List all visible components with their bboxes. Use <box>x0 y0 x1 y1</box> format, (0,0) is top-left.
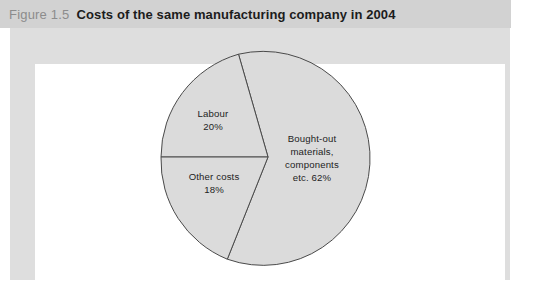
figure-caption-band: Figure 1.5 Costs of the same manufacturi… <box>0 0 511 28</box>
figure-container: Figure 1.5 Costs of the same manufacturi… <box>0 0 534 296</box>
figure-title: Costs of the same manufacturing company … <box>77 7 396 22</box>
figure-frame <box>10 28 510 280</box>
figure-plot-area <box>35 64 505 296</box>
figure-number: Figure 1.5 <box>9 7 70 22</box>
